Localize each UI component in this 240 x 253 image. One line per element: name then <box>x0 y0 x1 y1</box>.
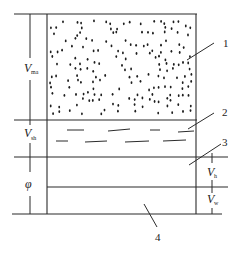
grain-dot <box>52 112 54 115</box>
leader-line-3 <box>189 144 221 165</box>
grain-dot <box>52 92 54 95</box>
grain-dot <box>158 86 160 89</box>
grain-dot <box>151 49 153 52</box>
grain-dot <box>117 50 119 53</box>
grain-dot <box>51 55 53 58</box>
grain-dot <box>111 45 113 48</box>
grain-dot <box>190 109 192 112</box>
grain-dot <box>71 45 73 48</box>
grain-dot <box>57 51 59 54</box>
grain-dot <box>81 27 83 30</box>
svg-text:ma: ma <box>31 69 39 75</box>
grain-dot <box>112 103 114 106</box>
grain-dot <box>82 97 84 100</box>
grain-dot <box>118 88 120 91</box>
leader-line-2 <box>188 113 214 129</box>
grain-dot <box>116 28 118 31</box>
grain-dot <box>77 21 79 24</box>
grain-dot <box>65 40 67 43</box>
grain-dot <box>136 52 138 55</box>
grain-dot <box>130 43 132 46</box>
grain-dot <box>171 111 173 114</box>
matrix-grain-pattern <box>49 20 192 116</box>
grain-dot <box>95 76 97 79</box>
grain-dot <box>75 93 77 96</box>
grain-dot <box>110 28 112 31</box>
grain-dot <box>55 26 57 29</box>
grain-dot <box>112 31 114 34</box>
grain-dot <box>158 101 160 104</box>
grain-dot <box>50 26 52 29</box>
grain-dot <box>189 26 191 29</box>
grain-dot <box>109 22 111 25</box>
grain-dot <box>147 43 149 46</box>
grain-dot <box>58 106 60 109</box>
grain-dot <box>67 79 69 82</box>
grain-dot <box>165 39 167 42</box>
grain-dot <box>92 70 94 73</box>
grain-dot <box>147 31 149 34</box>
leader-line-4 <box>144 204 157 227</box>
grain-dot <box>80 68 82 71</box>
grain-dot <box>124 69 126 72</box>
svg-text:sh: sh <box>31 135 36 141</box>
grain-dot <box>125 39 127 42</box>
grain-dot <box>166 69 168 72</box>
grain-dot <box>91 39 93 42</box>
grain-dot <box>99 79 101 82</box>
grain-dot <box>105 40 107 43</box>
grain-dot <box>134 103 136 106</box>
grain-dot <box>79 31 81 34</box>
callout-3: 3 <box>222 136 228 148</box>
grain-dot <box>123 22 125 25</box>
grain-dot <box>155 56 157 59</box>
grain-dot <box>170 99 172 102</box>
grain-dot <box>62 20 64 23</box>
grain-dot <box>182 110 184 113</box>
grain-dot <box>94 93 96 96</box>
grain-dot <box>157 112 159 115</box>
grain-dot <box>79 63 81 66</box>
grain-dot <box>64 94 66 97</box>
grain-dot <box>178 43 180 46</box>
callout-4: 4 <box>155 231 161 243</box>
grain-dot <box>141 31 143 34</box>
grain-dot <box>187 62 189 65</box>
grain-dot <box>131 81 133 84</box>
grain-dot <box>136 75 138 78</box>
grain-dot <box>115 31 117 34</box>
diagram-canvas: 1 2 3 4 V ma V sh φ V h V w <box>0 0 240 253</box>
grain-dot <box>76 74 78 77</box>
grain-dot <box>55 75 57 78</box>
grain-dot <box>187 34 189 37</box>
grain-dot <box>87 58 89 61</box>
grain-dot <box>160 20 162 23</box>
grain-dot <box>100 94 102 97</box>
grain-dot <box>164 26 166 29</box>
grain-dot <box>140 23 142 26</box>
grain-dot <box>182 81 184 84</box>
grain-dot <box>121 64 123 67</box>
grain-dot <box>149 52 151 55</box>
label-v-sh: V sh <box>24 126 36 141</box>
grain-dot <box>76 34 78 37</box>
grain-dot <box>93 50 95 53</box>
grain-dot <box>115 55 117 58</box>
shale-dash-pattern <box>56 129 194 142</box>
leader-line-1 <box>187 43 214 60</box>
label-v-h: V h <box>207 165 217 179</box>
svg-text:h: h <box>214 173 217 179</box>
callout-1: 1 <box>223 37 229 49</box>
grain-dot <box>177 31 179 34</box>
grain-dot <box>80 22 82 25</box>
grain-dot <box>125 58 127 61</box>
grain-dot <box>163 22 165 25</box>
grain-dot <box>163 77 165 80</box>
grain-dot <box>153 86 155 89</box>
grain-dot <box>143 45 145 48</box>
grain-dot <box>142 105 144 108</box>
grain-dot <box>173 21 175 24</box>
grain-dot <box>164 85 166 88</box>
grain-dot <box>183 46 185 49</box>
grain-dot <box>148 73 150 76</box>
